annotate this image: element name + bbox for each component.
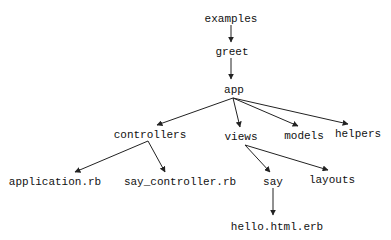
node-helpers: helpers	[335, 128, 381, 140]
node-examples: examples	[205, 13, 258, 25]
edge-arrow-controllers-to-say_controller_rb	[148, 141, 165, 172]
node-greet: greet	[215, 46, 248, 58]
node-layouts: layouts	[309, 174, 355, 186]
edge-arrow-controllers-to-application_rb	[75, 141, 148, 172]
node-controllers: controllers	[114, 129, 187, 141]
node-say: say	[263, 176, 283, 188]
directory-tree-diagram: examplesgreetappcontrollersviewsmodelshe…	[0, 0, 391, 240]
node-hello_html_erb: hello.html.erb	[231, 221, 323, 233]
node-application_rb: application.rb	[9, 176, 101, 188]
edge-arrow-views-to-layouts	[245, 145, 328, 170]
node-say_controller_rb: say_controller.rb	[124, 176, 236, 188]
edge-arrow-app-to-helpers	[233, 98, 348, 124]
node-models: models	[284, 130, 324, 142]
nodes-group: examplesgreetappcontrollersviewsmodelshe…	[9, 13, 381, 233]
node-app: app	[224, 84, 244, 96]
node-views: views	[224, 131, 257, 143]
edge-arrow-app-to-views	[233, 98, 240, 127]
edge-arrow-app-to-controllers	[157, 98, 233, 125]
edge-arrow-app-to-models	[233, 98, 298, 126]
